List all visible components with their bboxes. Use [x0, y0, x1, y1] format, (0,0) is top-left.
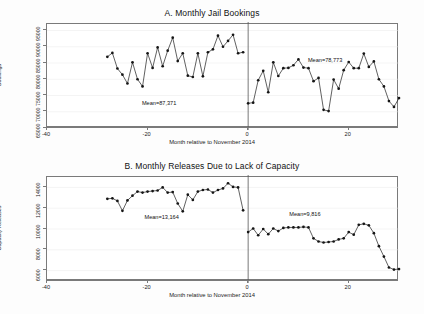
x-tick-label: 0: [246, 131, 249, 137]
data-point: [111, 52, 114, 55]
data-point: [191, 199, 194, 202]
panel-b-y-axis-title: Capacity Releases: [0, 206, 2, 251]
x-tick: [147, 280, 148, 283]
data-point: [116, 200, 119, 203]
data-point: [146, 52, 149, 55]
data-point: [252, 227, 255, 230]
data-point: [176, 60, 179, 63]
data-point: [171, 191, 174, 194]
data-point: [257, 234, 260, 237]
data-point: [367, 66, 370, 69]
data-point: [393, 268, 396, 271]
data-point: [242, 209, 245, 212]
data-point: [237, 52, 240, 55]
data-point: [322, 241, 325, 244]
data-point: [312, 237, 315, 240]
data-point: [332, 240, 335, 243]
data-point: [106, 55, 109, 58]
data-point: [322, 108, 325, 111]
data-point: [327, 110, 330, 113]
data-point: [277, 75, 280, 78]
data-point: [282, 227, 285, 230]
y-tick-line: [43, 207, 46, 208]
data-point: [116, 67, 119, 70]
data-point: [207, 188, 210, 191]
data-point: [161, 186, 164, 189]
data-point: [383, 255, 386, 258]
data-point: [302, 226, 305, 229]
data-point: [232, 186, 235, 189]
data-point: [252, 101, 255, 104]
panel-a-y-axis-title: Bookings: [0, 64, 2, 86]
data-point: [247, 231, 250, 234]
data-point: [151, 67, 154, 70]
data-point: [337, 87, 340, 90]
data-point: [247, 102, 250, 105]
data-point: [267, 233, 270, 236]
data-point: [342, 69, 345, 72]
data-point: [126, 199, 129, 202]
y-tick-label: 8000: [35, 238, 41, 260]
data-point: [202, 75, 205, 78]
figure-root: A. Monthly Jail Bookings 650007000075000…: [0, 0, 424, 314]
data-point: [383, 85, 386, 88]
x-tick: [46, 127, 47, 130]
data-point: [388, 100, 391, 103]
data-point: [297, 226, 300, 229]
data-point: [181, 52, 184, 55]
mean-annotation: Mean=13,164: [144, 214, 178, 220]
mean-annotation: Mean=9,816: [289, 211, 320, 217]
data-point: [171, 36, 174, 39]
data-point: [222, 45, 225, 48]
x-tick: [348, 280, 349, 283]
y-tick-line: [43, 94, 46, 95]
panel-b-x-axis-title: Month relative to November 2014: [0, 292, 424, 298]
data-point: [267, 91, 270, 94]
data-point: [131, 194, 134, 197]
mean-annotation: Mean=78,773: [308, 57, 342, 63]
data-point: [312, 80, 315, 83]
panel-a-title: A. Monthly Jail Bookings: [0, 8, 424, 18]
data-point: [327, 241, 330, 244]
data-point: [262, 228, 265, 231]
data-point: [262, 69, 265, 72]
x-tick-label: -20: [143, 131, 151, 137]
data-point: [292, 226, 295, 229]
x-tick: [147, 127, 148, 130]
y-tick-line: [43, 78, 46, 79]
data-point: [398, 97, 401, 100]
data-point: [202, 189, 205, 192]
data-point: [106, 197, 109, 200]
panel-a-y-axis: 65000700007500080000850009000095000: [0, 23, 46, 127]
data-point: [141, 85, 144, 88]
x-tick: [46, 280, 47, 283]
data-point: [347, 61, 350, 64]
data-point: [131, 61, 134, 64]
data-point: [388, 266, 391, 269]
panel-b-y-axis: 60008000100001200014000: [0, 176, 46, 280]
data-point: [207, 51, 210, 54]
data-point: [217, 34, 220, 37]
data-point: [227, 40, 230, 43]
data-point: [186, 193, 189, 196]
y-tick-line: [43, 186, 46, 187]
data-point: [352, 67, 355, 70]
mean-annotation: Mean=87,371: [142, 100, 176, 106]
x-tick-label: 20: [345, 131, 351, 137]
y-tick-label: 10000: [35, 217, 41, 239]
data-point: [378, 78, 381, 81]
data-point: [317, 240, 320, 243]
y-tick-line: [43, 45, 46, 46]
panel-b-series-svg: [47, 177, 399, 281]
data-point: [141, 191, 144, 194]
data-point: [287, 226, 290, 229]
data-point: [337, 238, 340, 241]
y-tick-line: [43, 228, 46, 229]
data-point: [156, 46, 159, 49]
data-point: [307, 226, 310, 229]
panel-a-series-svg: [47, 24, 399, 128]
panel-b-x-axis-line: [46, 280, 398, 281]
data-point: [166, 191, 169, 194]
data-point: [181, 210, 184, 213]
x-tick-label: -40: [42, 284, 50, 290]
